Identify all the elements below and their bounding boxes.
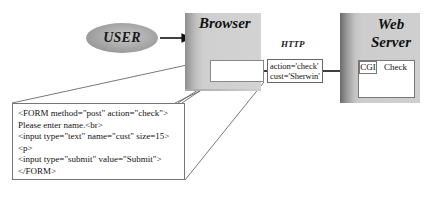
- user-label: USER: [103, 30, 140, 46]
- cgi-label: CGI: [359, 61, 377, 74]
- form-source-line: Please enter name.<br>: [18, 120, 179, 132]
- form-source-line: </FORM>: [18, 166, 179, 178]
- form-source-line: <input type="submit" value="Submit">: [18, 154, 179, 166]
- web-server-label-line2: Server: [362, 33, 420, 51]
- form-source-box: <FORM method="post" action="check"> Plea…: [12, 103, 185, 180]
- http-label: HTTP: [281, 39, 305, 49]
- request-line: cust='Sherwin': [270, 71, 320, 81]
- user-node: USER: [86, 23, 158, 53]
- browser-label: Browser: [199, 15, 251, 32]
- check-program-label: Check: [384, 62, 407, 72]
- browser-shadow: [185, 89, 261, 91]
- form-source-line: <p>: [18, 143, 179, 155]
- http-request-box: action='check' cust='Sherwin': [267, 59, 323, 83]
- request-line: action='check': [270, 61, 320, 71]
- form-source-line: <FORM method="post" action="check">: [18, 108, 179, 120]
- web-server-label: Web Server: [362, 15, 420, 51]
- form-source-line: <input type="text" name="cust" size=15>: [18, 131, 179, 143]
- browser-form-inset: [210, 60, 264, 82]
- web-server-label-line1: Web: [362, 15, 420, 33]
